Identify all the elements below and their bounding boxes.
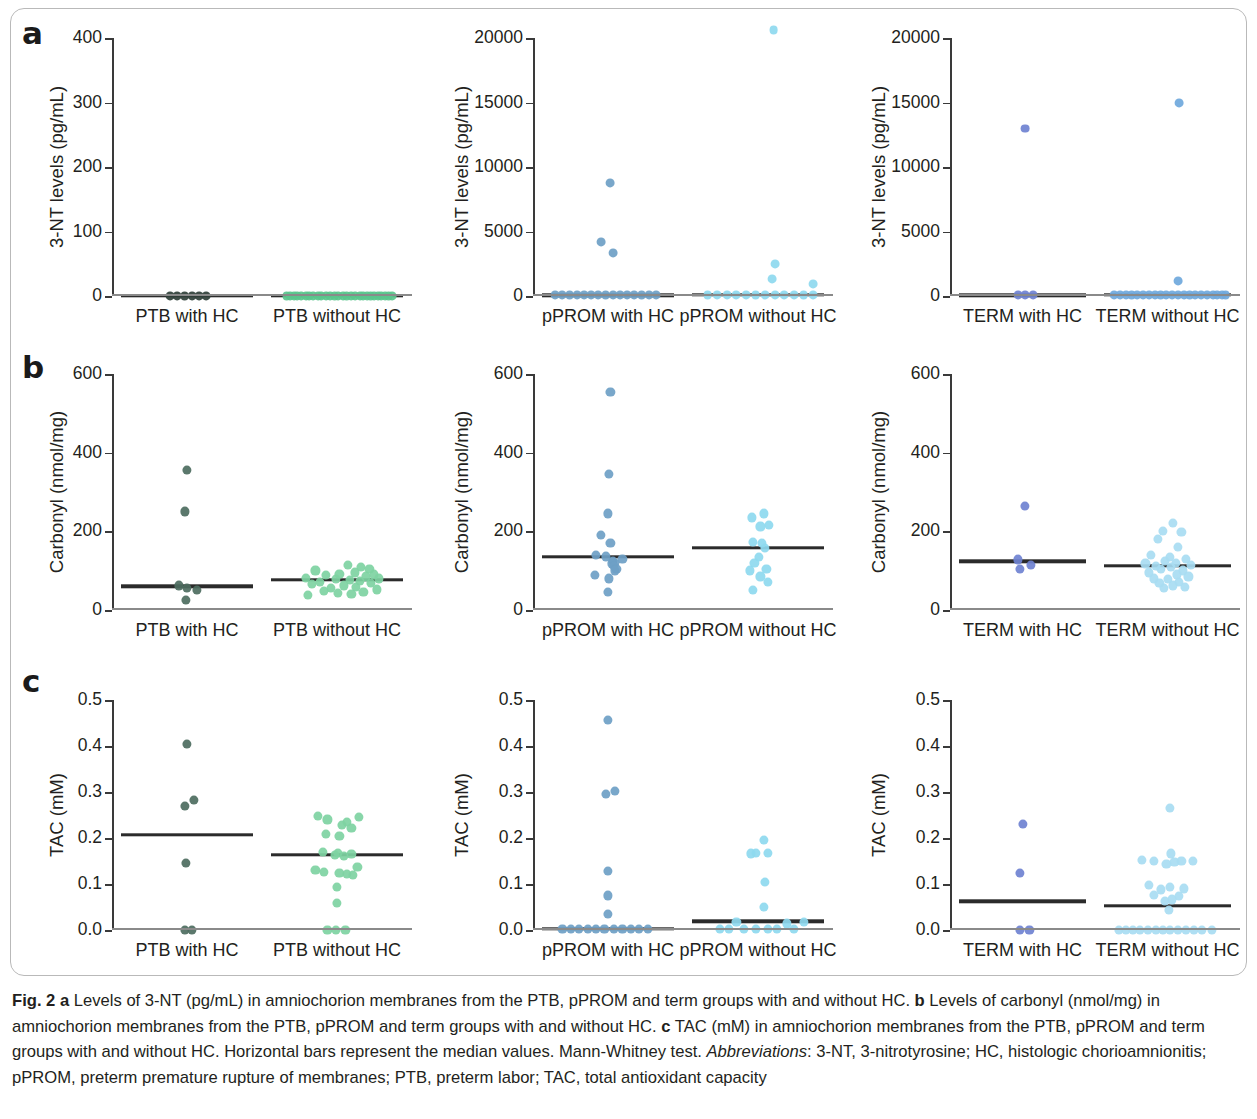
caption-segment: Fig. 2 — [12, 991, 55, 1010]
caption-segment: a — [60, 991, 69, 1010]
subplot-c3: TERM with HCTERM without HCTAC (mM)0.00.… — [0, 0, 1257, 985]
caption-segment: b — [915, 991, 925, 1010]
figure-caption: Fig. 2 a Levels of 3-NT (pg/mL) in amnio… — [12, 988, 1245, 1090]
y-tick — [943, 884, 950, 886]
y-tick-label: 0.1 — [916, 873, 940, 894]
y-axis-line — [950, 700, 952, 930]
y-tick — [943, 746, 950, 748]
x-axis-line — [950, 928, 1240, 930]
y-tick — [943, 792, 950, 794]
x-category-label: TERM with HC — [963, 940, 1082, 961]
caption-segment: c — [661, 1017, 670, 1036]
y-tick-label: 0.0 — [916, 919, 940, 940]
y-tick-label: 0.3 — [916, 781, 940, 802]
caption-segment: Abbreviations — [707, 1042, 808, 1061]
y-tick — [943, 930, 950, 932]
y-tick-label: 0.4 — [916, 735, 940, 756]
figure-panels: abcPTB with HCPTB without HC3-NT levels … — [0, 0, 1257, 985]
y-tick — [943, 700, 950, 702]
caption-segment: Levels of 3-NT (pg/mL) in amniochorion m… — [69, 991, 914, 1010]
x-category-label: TERM without HC — [1095, 940, 1239, 961]
y-axis-title: TAC (mM) — [868, 700, 890, 930]
y-tick-label: 0.2 — [916, 827, 940, 848]
y-tick — [943, 838, 950, 840]
plot-area-c3: 0.00.10.20.30.40.5 — [950, 700, 1240, 930]
y-tick-label: 0.5 — [916, 689, 940, 710]
